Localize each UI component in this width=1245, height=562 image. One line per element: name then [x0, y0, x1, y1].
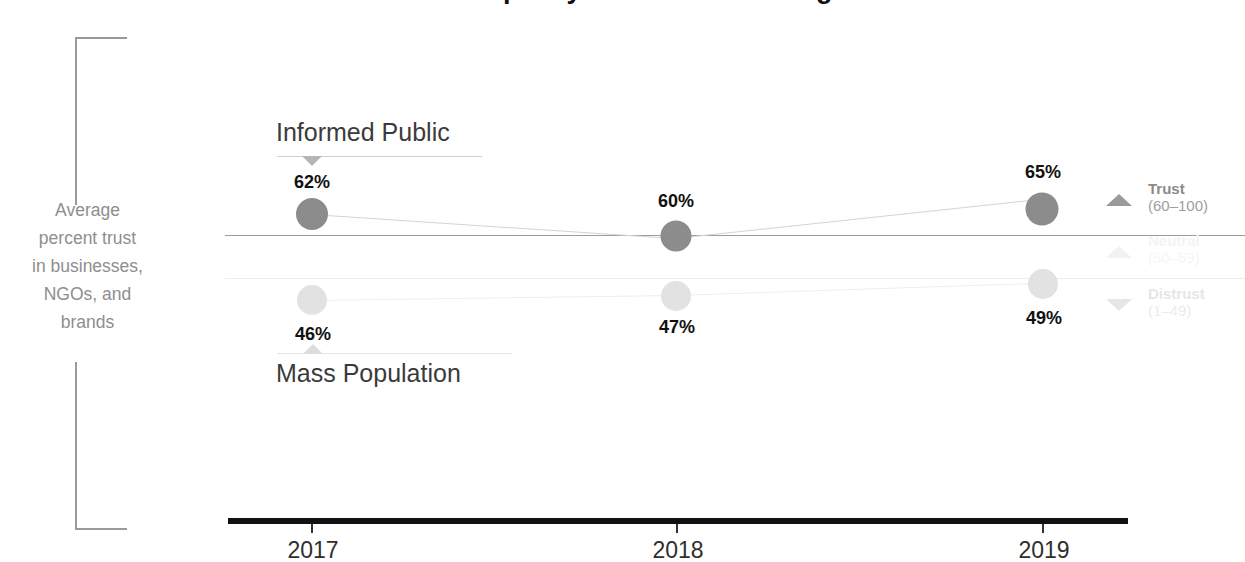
plot-area: 62% 60% 65% 46% 47% 49% Informed Public …: [0, 0, 1245, 562]
x-axis-label-2018: 2018: [652, 537, 703, 562]
triangle-up-neutral-icon: [1106, 246, 1132, 258]
legend-trust-range: (60–100): [1148, 197, 1208, 214]
legend-item-distrust: Distrust (1–49): [1100, 285, 1245, 329]
data-point-mass-2017[interactable]: [297, 285, 327, 315]
data-point-informed-2019[interactable]: [1026, 193, 1059, 226]
series-line-mass-2018-2019: [675, 283, 1044, 296]
caret-down-icon: [302, 156, 322, 166]
x-tick-2018: [676, 524, 678, 533]
legend-neutral-range: (50–59): [1148, 249, 1200, 266]
legend-distrust-name: Distrust: [1148, 285, 1205, 302]
legend-item-neutral: Neutral (50–59): [1100, 232, 1245, 276]
annotation-label-mass-population: Mass Population: [276, 359, 461, 388]
series-line-mass-2017-2018: [312, 295, 675, 301]
x-axis-line: [228, 518, 1128, 524]
x-axis-label-2019: 2019: [1018, 537, 1069, 562]
legend-distrust-range: (1–49): [1148, 302, 1191, 319]
chart-canvas: Trust inequality reaches record highs Av…: [0, 0, 1245, 562]
triangle-up-icon: [1106, 194, 1132, 206]
x-tick-2019: [1042, 524, 1044, 533]
x-axis-label-2017: 2017: [287, 537, 338, 562]
value-label-mass-2019: 49%: [1026, 308, 1062, 329]
x-tick-2017: [311, 524, 313, 533]
band-rule-trust-neutral: [225, 235, 1245, 236]
data-point-informed-2018[interactable]: [661, 221, 692, 252]
value-label-informed-2018: 60%: [658, 191, 694, 212]
legend-neutral-name: Neutral: [1148, 232, 1200, 249]
data-point-informed-2017[interactable]: [296, 198, 328, 230]
caret-up-icon: [303, 344, 323, 354]
legend-item-trust: Trust (60–100): [1100, 180, 1245, 224]
data-point-mass-2018[interactable]: [661, 281, 691, 311]
band-rule-neutral-distrust: [225, 278, 1245, 279]
value-label-mass-2017: 46%: [295, 324, 331, 345]
legend-trust-name: Trust: [1148, 180, 1185, 197]
triangle-down-icon: [1106, 299, 1132, 311]
legend: Trust (60–100) Neutral (50–59) Distrust …: [1100, 180, 1245, 330]
series-line-informed-2018-2019: [675, 199, 1042, 239]
value-label-informed-2017: 62%: [294, 172, 330, 193]
value-label-mass-2018: 47%: [659, 317, 695, 338]
data-point-mass-2019[interactable]: [1028, 269, 1058, 299]
value-label-informed-2019: 65%: [1025, 162, 1061, 183]
annotation-label-informed-public: Informed Public: [276, 118, 450, 147]
